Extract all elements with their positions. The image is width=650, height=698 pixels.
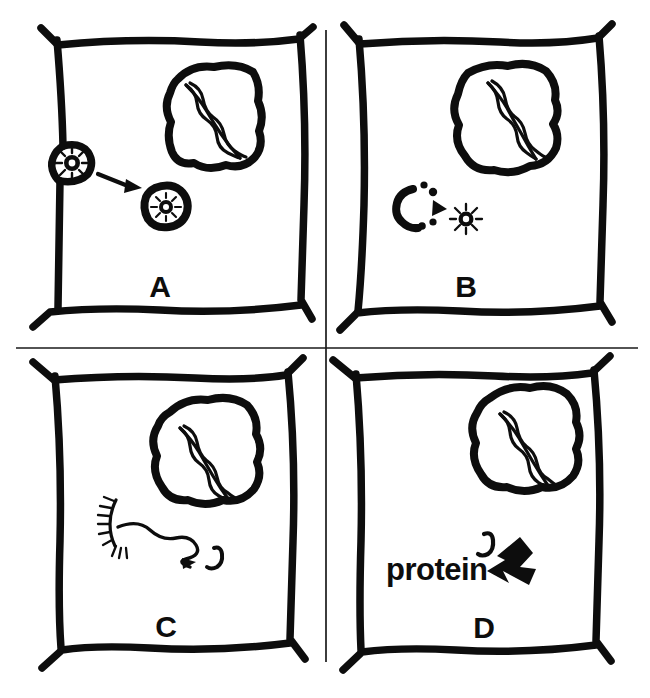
- virus-at-membrane-a: [55, 147, 89, 179]
- virus-center-hole-vesicle-a: [163, 204, 169, 210]
- panel-letter-a: A: [149, 270, 171, 303]
- figure-background: [0, 0, 650, 698]
- cell-wall-left-lower-a: [58, 181, 60, 308]
- panel-letter-d: D: [473, 611, 495, 644]
- vesicle-fragment-3-b: [418, 222, 426, 230]
- viral-infection-diagram: A: [0, 0, 650, 698]
- vesicle-fragment-1-b: [420, 181, 427, 188]
- panel-letter-c: C: [155, 610, 177, 643]
- panel-letter-b: B: [455, 270, 477, 303]
- figure-root: A: [0, 0, 650, 698]
- released-virus-b: [450, 204, 482, 234]
- vesicle-fragment-4-b: [429, 218, 436, 225]
- protein-label: protein: [386, 552, 488, 587]
- vesicle-fragment-2-b: [429, 188, 437, 196]
- virus-center-hole-b: [463, 216, 469, 222]
- virus-center-hole-a: [69, 160, 76, 167]
